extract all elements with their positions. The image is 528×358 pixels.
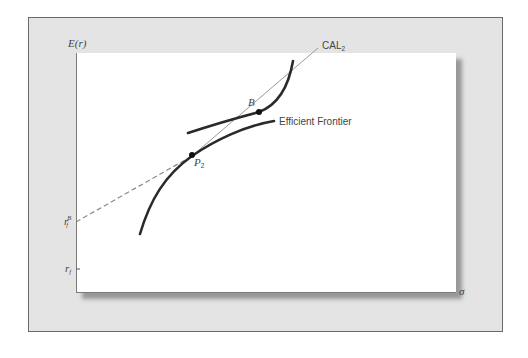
borrowing-rate-label: rBf [64,214,68,228]
cal2-sub: 2 [341,45,345,52]
cal2-line [192,48,318,156]
borrowing-rate-sup: B [67,214,71,221]
indifference-curve [188,61,293,133]
risk-free-rate-sub: f [69,268,71,275]
borrowing-rate-sub: f [66,221,68,228]
risk-free-rate-label: rf [65,262,71,275]
point-p2-label: P2 [194,156,204,169]
efficient-frontier-curve [140,121,274,234]
cal2-base: CAL [322,40,341,51]
cal2-label: CAL2 [322,40,345,52]
point-b-marker [256,109,262,115]
point-p2-base: P [194,156,201,168]
point-p2-sub: 2 [201,162,205,169]
point-b-label: B [248,96,255,108]
diagram-canvas [0,0,528,358]
y-axis-label: E(r) [68,37,86,49]
x-axis-label: σ [459,285,464,297]
efficient-frontier-label: Efficient Frontier [279,116,352,127]
borrowing-dashed-line [76,156,192,222]
